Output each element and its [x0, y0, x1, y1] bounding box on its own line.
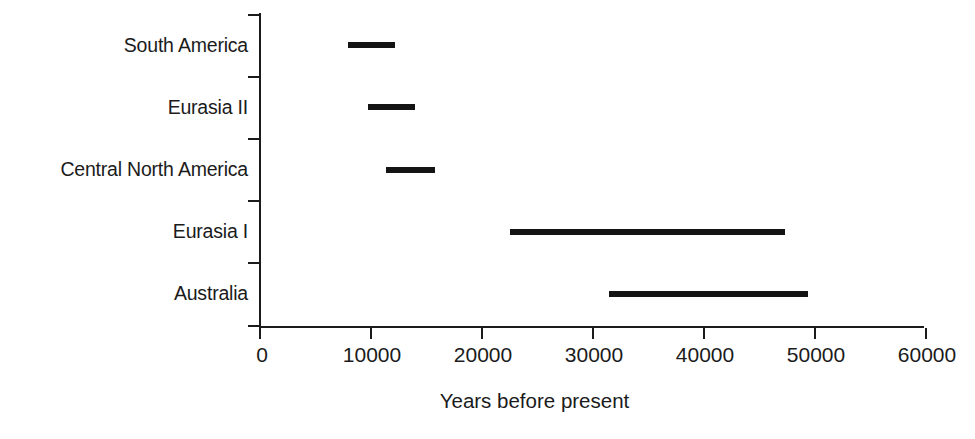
y-axis-label-eurasia-i: Eurasia I [0, 222, 248, 242]
x-axis-tick-label-20000: 20000 [454, 343, 512, 367]
x-axis-tick-40000 [703, 328, 705, 339]
x-axis-tick-label-60000: 60000 [898, 343, 956, 367]
y-axis-label-central-north-america: Central North America [0, 160, 248, 180]
y-axis-tick-0 [248, 14, 260, 16]
y-axis-label-eurasia-ii: Eurasia II [0, 98, 248, 118]
y-axis-tick-1 [248, 76, 260, 78]
x-axis-tick-label-10000: 10000 [343, 343, 401, 367]
x-axis-tick-10000 [370, 328, 372, 339]
y-axis-tick-3 [248, 200, 260, 202]
x-axis-tick-label-0: 0 [256, 343, 268, 367]
x-axis-tick-0 [259, 328, 261, 339]
y-axis-line [259, 13, 261, 328]
y-axis-tick-4 [248, 262, 260, 264]
range-bar-eurasia-i [510, 229, 785, 235]
y-axis-category-labels: South America Eurasia II Central North A… [0, 0, 248, 439]
y-axis-label-south-america: South America [0, 36, 248, 56]
range-bar-eurasia-ii [368, 104, 416, 110]
x-axis-tick-50000 [814, 328, 816, 339]
y-axis-tick-2 [248, 138, 260, 140]
x-axis-tick-30000 [592, 328, 594, 339]
x-axis-title-text: Years before present [440, 389, 630, 413]
x-axis-tick-60000 [925, 328, 927, 339]
range-chart: South America Eurasia II Central North A… [0, 0, 975, 439]
range-bar-south-america [348, 42, 395, 48]
range-bar-australia [609, 291, 809, 297]
range-bar-central-north-america [386, 167, 436, 173]
x-axis-tick-label-50000: 50000 [787, 343, 845, 367]
y-axis-label-australia: Australia [0, 284, 248, 304]
x-axis-tick-label-40000: 40000 [676, 343, 734, 367]
x-axis-tick-20000 [481, 328, 483, 339]
x-axis-title: Years before present [0, 389, 975, 413]
x-axis-tick-label-30000: 30000 [565, 343, 623, 367]
